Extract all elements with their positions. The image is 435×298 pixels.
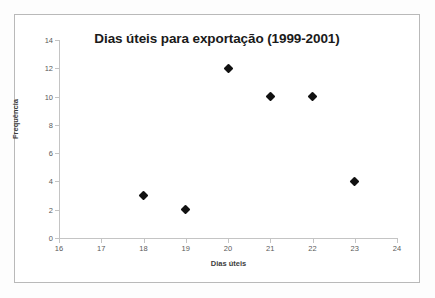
x-tick-mark — [397, 239, 398, 243]
x-tick-mark — [228, 239, 229, 243]
x-tick-mark — [355, 239, 356, 243]
x-tick-mark — [59, 239, 60, 243]
chart-figure-frame: Dias úteis para exportação (1999-2001) 0… — [14, 14, 420, 283]
x-tick-label: 24 — [384, 244, 410, 253]
y-tick-label: 14 — [29, 36, 53, 45]
x-tick-label: 18 — [131, 244, 157, 253]
y-tick-label: 0 — [29, 234, 53, 243]
x-tick-label: 19 — [173, 244, 199, 253]
x-tick-mark — [144, 239, 145, 243]
y-tick-label: 6 — [29, 149, 53, 158]
x-tick-label: 20 — [215, 244, 241, 253]
y-tick-label: 4 — [29, 177, 53, 186]
x-tick-label: 21 — [257, 244, 283, 253]
x-tick-mark — [313, 239, 314, 243]
x-tick-label: 22 — [300, 244, 326, 253]
y-tick-label: 12 — [29, 64, 53, 73]
x-tick-mark — [186, 239, 187, 243]
y-tick-label: 10 — [29, 92, 53, 101]
x-tick-label: 17 — [88, 244, 114, 253]
x-axis-title: Dias úteis — [59, 259, 398, 268]
x-tick-label: 16 — [46, 244, 72, 253]
x-tick-label: 23 — [342, 244, 368, 253]
y-tick-label: 2 — [29, 205, 53, 214]
x-tick-mark — [270, 239, 271, 243]
x-tick-mark — [101, 239, 102, 243]
y-tick-label: 8 — [29, 120, 53, 129]
y-axis-title: Frequência — [11, 99, 20, 139]
